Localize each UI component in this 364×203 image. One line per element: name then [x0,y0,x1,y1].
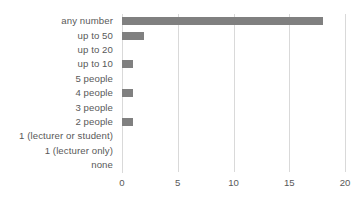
bar-row [122,14,345,28]
bar [122,118,133,126]
bar-row [122,71,345,85]
bar-series [122,14,345,172]
x-axis-tick-labels: 05101520 [122,176,345,190]
bar-row [122,57,345,71]
x-axis-tick-label: 10 [228,176,239,190]
y-axis-label: up to 50 [0,28,118,42]
y-axis-label: up to 10 [0,57,118,71]
bar-row [122,115,345,129]
bar-row [122,43,345,57]
plot-area [122,14,345,172]
bar [122,32,144,40]
bar-row [122,100,345,114]
bar-chart: any numberup to 50up to 20up to 105 peop… [0,0,364,203]
x-axis-tick-label: 0 [119,176,124,190]
bar-row [122,129,345,143]
bar-row [122,158,345,172]
y-axis-label: 4 people [0,86,118,100]
bar [122,60,133,68]
x-axis-tick-label: 5 [175,176,180,190]
y-axis-label: none [0,158,118,172]
y-axis-label: 1 (lecturer or student) [0,129,118,143]
bar [122,17,323,25]
y-axis-label: up to 20 [0,43,118,57]
y-axis-label: any number [0,14,118,28]
y-axis-label: 1 (lecturer only) [0,143,118,157]
y-axis-label: 2 people [0,115,118,129]
gridline [345,14,346,172]
bar-row [122,28,345,42]
y-axis-category-labels: any numberup to 50up to 20up to 105 peop… [0,14,118,172]
x-axis-tick-label: 20 [340,176,351,190]
bar-row [122,143,345,157]
y-axis-label: 5 people [0,71,118,85]
y-axis-label: 3 people [0,100,118,114]
x-axis-tick-label: 15 [284,176,295,190]
bar [122,89,133,97]
bar-row [122,86,345,100]
